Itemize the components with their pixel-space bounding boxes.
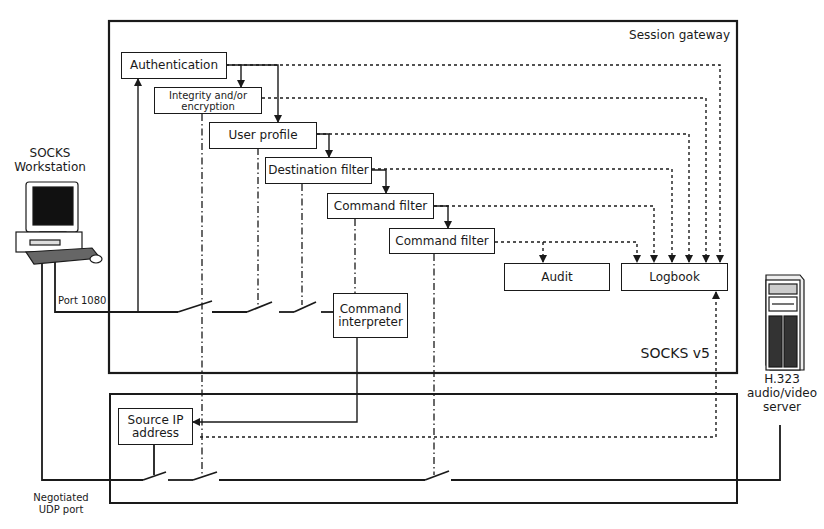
user-profile-module: User profile [209,122,317,149]
destination-filter-module: Destination filter [265,157,372,184]
udp-port-label-line1: Negotiated [28,492,94,504]
logbook-module: Logbook [621,263,728,291]
command-filter-1-label: Command filter [334,200,427,213]
integrity-encryption-module: Integrity and/or encryption [154,87,262,114]
workstation-label-line2: Workstation [10,160,90,174]
source-ip-module: Source IP address [118,408,193,445]
server-icon [766,275,804,370]
udp-path [143,425,780,480]
authentication-label: Authentication [130,59,218,72]
command-interpreter-module: Command interpreter [333,293,408,338]
udp-port-label-line2: UDP port [28,504,94,516]
authentication-module: Authentication [121,52,227,79]
command-filter-2-label: Command filter [395,235,488,248]
tcp-port-label: Port 1080 [58,295,110,307]
user-profile-label: User profile [228,129,297,142]
source-ip-line2: address [132,427,179,440]
command-interpreter-line1: Command [340,303,402,316]
workstation-icon [16,182,102,264]
socks-version-label: SOCKS v5 [630,346,710,360]
command-interpreter-line2: interpreter [338,316,403,329]
workstation-label: SOCKS Workstation [10,146,90,174]
session-gateway-label: Session gateway [620,28,730,42]
command-filter-module-2: Command filter [389,228,495,254]
audit-label: Audit [541,271,572,284]
integrity-label-line2: encryption [181,101,235,112]
server-label: H.323 audio/video server [744,372,820,414]
server-label-line2: audio/video [744,386,820,400]
udp-relay-container [110,394,737,503]
audit-module: Audit [504,263,610,291]
workstation-label-line1: SOCKS [10,146,90,160]
server-label-line3: server [744,400,820,414]
command-filter-module-1: Command filter [327,193,434,219]
source-ip-line1: Source IP [128,414,184,427]
logbook-label: Logbook [649,271,700,284]
server-label-line1: H.323 [744,372,820,386]
integrity-label-line1: Integrity and/or [169,90,247,101]
udp-port-label: Negotiated UDP port [28,492,94,516]
destination-filter-label: Destination filter [268,164,369,177]
